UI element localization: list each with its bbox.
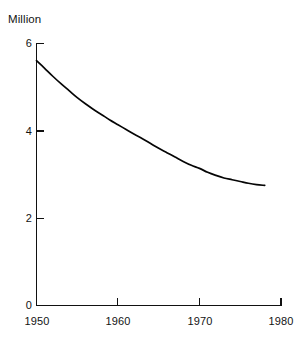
chart-container: Million 6 4 2 0 1950 1960 1970 1980 (0, 0, 307, 346)
x-ticks-group (118, 298, 282, 306)
axes-group (36, 43, 282, 306)
plot-area (0, 0, 307, 346)
y-ticks-group (37, 44, 45, 219)
data-series-line (37, 61, 265, 186)
